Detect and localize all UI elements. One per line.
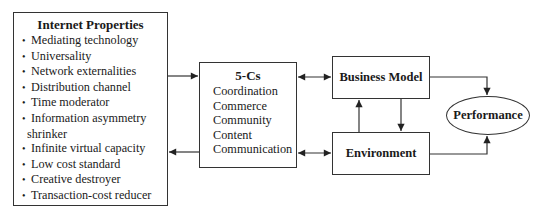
list-item: •Mediating technology xyxy=(22,33,167,49)
list-item-label: Infinite virtual capacity xyxy=(31,141,145,155)
bullet-icon: • xyxy=(22,50,31,65)
bullet-icon: • xyxy=(22,34,31,49)
arrow-business-model-to-performance xyxy=(430,77,487,95)
bullet-icon: • xyxy=(22,112,31,127)
list-item: •Infinite virtual capacity xyxy=(22,141,167,157)
list-item: •Network externalities xyxy=(22,64,167,80)
environment-box: Environment xyxy=(332,132,430,175)
list-item-label: Distribution channel xyxy=(31,80,131,94)
five-cs-item: Commerce xyxy=(213,99,296,114)
list-item: •Creative destroyer xyxy=(22,172,167,188)
bullet-icon: • xyxy=(22,81,31,96)
list-item-label: Universality xyxy=(31,49,91,63)
performance-ellipse: Performance xyxy=(446,96,530,135)
list-item-label: Time moderator xyxy=(31,95,109,109)
bullet-icon: • xyxy=(22,189,31,204)
list-item: •Transaction-cost reducer xyxy=(22,188,167,204)
business-model-label: Business Model xyxy=(339,70,422,85)
bullet-icon: • xyxy=(22,158,31,173)
list-item-label: Mediating technology xyxy=(31,33,138,47)
business-model-box: Business Model xyxy=(332,56,430,99)
bullet-icon: • xyxy=(22,96,31,111)
five-cs-title: 5-Cs xyxy=(200,68,296,84)
list-item-label: Creative destroyer xyxy=(31,172,121,186)
list-item: •Universality xyxy=(22,49,167,65)
arrow-environment-to-performance xyxy=(430,136,487,154)
list-item-label: Information asymmetry xyxy=(31,111,146,125)
environment-label: Environment xyxy=(346,146,417,161)
list-item: •Low cost standard xyxy=(22,157,167,173)
performance-label: Performance xyxy=(453,108,522,123)
five-cs-item: Content xyxy=(213,128,296,143)
list-item: •Time moderator xyxy=(22,95,167,111)
bullet-icon: • xyxy=(22,65,31,80)
internet-properties-title: Internet Properties xyxy=(14,17,167,32)
internet-properties-box: Internet Properties •Mediating technolog… xyxy=(13,12,168,206)
list-item: •Distribution channel xyxy=(22,80,167,96)
five-cs-item: Community xyxy=(213,113,296,128)
five-cs-item: Coordination xyxy=(213,84,296,99)
list-item-label: Transaction-cost reducer xyxy=(31,188,151,202)
bullet-icon: • xyxy=(22,173,31,188)
list-item-label: Network externalities xyxy=(31,64,136,78)
list-item: •Information asymmetryshrinker xyxy=(22,111,167,141)
five-cs-box: 5-Cs Coordination Commerce Community Con… xyxy=(199,62,297,168)
bullet-icon: • xyxy=(22,142,31,157)
five-cs-item: Communication xyxy=(213,142,296,157)
internet-properties-list: •Mediating technology •Universality •Net… xyxy=(22,33,167,204)
list-item-continuation: shrinker xyxy=(31,127,167,142)
list-item-label: Low cost standard xyxy=(31,157,120,171)
